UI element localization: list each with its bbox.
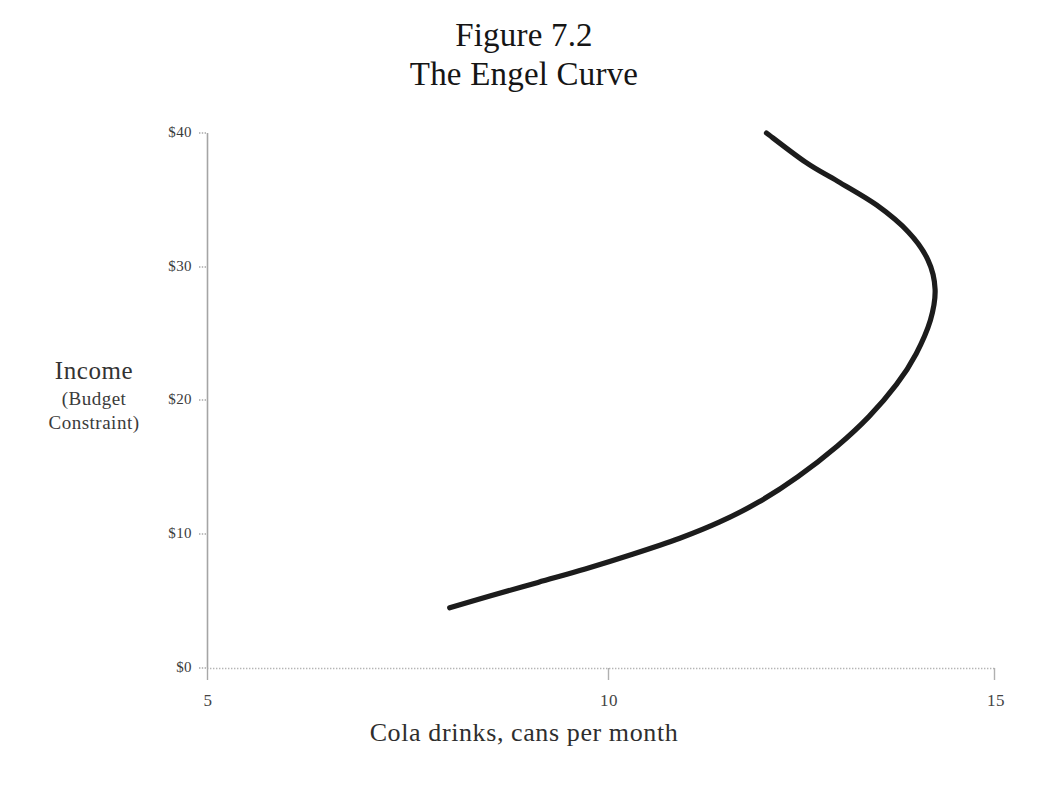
figure-page: Figure 7.2 The Engel Curve $40 — [0, 0, 1048, 791]
y-tick-label-40: $40 — [132, 124, 192, 141]
y-tick-label-10-wrap: $10 — [130, 525, 192, 543]
engel-curve — [450, 133, 935, 608]
y-tick-label-30: $30 — [132, 258, 192, 275]
y-tick-label-10: $10 — [132, 525, 192, 542]
y-tick-label-0: $0 — [132, 659, 192, 676]
y-tick-label-0-wrap: $0 — [130, 659, 192, 677]
y-axis-title-main: Income — [14, 355, 174, 387]
y-tick-label-40-wrap: $40 — [130, 124, 192, 142]
x-tick-label-15: 15 — [956, 691, 1036, 711]
y-axis-title: Income (Budget Constraint) — [14, 355, 174, 436]
x-axis-title: Cola drinks, cans per month — [0, 718, 1048, 748]
y-tick-label-30-wrap: $30 — [130, 258, 192, 276]
y-axis-title-sub-1: (Budget — [14, 387, 174, 411]
x-tick-label-5: 5 — [168, 691, 248, 711]
y-axis-title-sub-2: Constraint) — [14, 411, 174, 435]
x-tick-label-10: 10 — [569, 691, 649, 711]
